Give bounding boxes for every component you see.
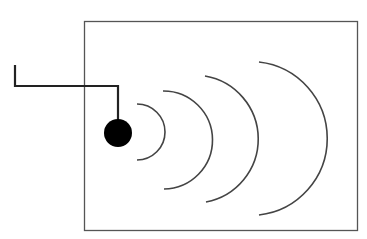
wire-lead [15, 65, 118, 122]
wave-diagram [0, 0, 367, 239]
wave-front-1 [137, 104, 165, 160]
wave-front-4 [259, 62, 327, 215]
wave-front-2 [163, 91, 213, 189]
point-source-dot [104, 119, 132, 147]
